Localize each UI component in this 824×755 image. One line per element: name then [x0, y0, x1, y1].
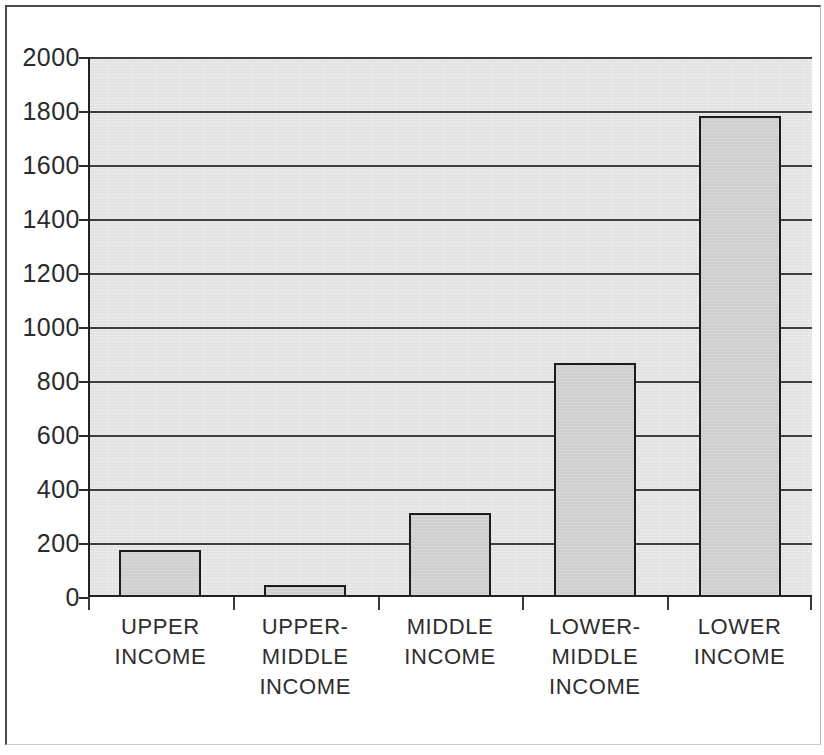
x-axis-category-label-line: MIDDLE — [404, 612, 496, 642]
x-axis-category-label-line: MIDDLE — [259, 642, 351, 672]
bar — [119, 550, 201, 597]
plot-area — [88, 57, 812, 597]
y-axis-tick-label: 800 — [14, 369, 80, 394]
y-axis-tick-label: 1800 — [14, 99, 80, 124]
x-axis-tick-mark — [88, 597, 90, 610]
y-axis-tick-label: 400 — [14, 477, 80, 502]
bar-texture — [556, 365, 634, 595]
y-axis-tick-mark — [79, 381, 88, 383]
y-axis-tick-label: 1400 — [14, 207, 80, 232]
x-axis-category-label: LOWER-MIDDLEINCOME — [549, 612, 641, 702]
bar — [699, 116, 781, 597]
y-axis-tick-label: 200 — [14, 531, 80, 556]
x-axis-tick-mark — [522, 597, 524, 610]
y-axis-tick-label: 600 — [14, 423, 80, 448]
x-axis-ticks — [88, 597, 812, 611]
bar-chart: 2000180016001400120010008006004002000 UP… — [0, 0, 824, 755]
gridline — [88, 111, 812, 113]
y-axis-tick-mark — [79, 165, 88, 167]
bar — [554, 363, 636, 597]
y-axis-tick-mark — [79, 489, 88, 491]
y-axis-tick-mark — [79, 435, 88, 437]
bar — [409, 513, 491, 597]
y-axis-tick-label: 2000 — [14, 45, 80, 70]
x-axis-category-label: MIDDLEINCOME — [404, 612, 496, 672]
x-axis-category-label-line: LOWER — [694, 612, 786, 642]
x-axis-tick-mark — [233, 597, 235, 610]
x-axis-tick-mark — [378, 597, 380, 610]
bar-texture — [701, 118, 779, 595]
y-axis-tick-mark — [79, 543, 88, 545]
x-axis-category-label-line: MIDDLE — [549, 642, 641, 672]
y-axis-tick-mark — [79, 57, 88, 59]
x-axis-category-label-line: LOWER- — [549, 612, 641, 642]
y-axis-tick-label: 1200 — [14, 261, 80, 286]
y-axis-line — [88, 57, 90, 597]
x-axis-category-label-line: UPPER- — [259, 612, 351, 642]
y-axis-tick-mark — [79, 111, 88, 113]
x-axis-category-label: UPPER-MIDDLEINCOME — [259, 612, 351, 702]
x-axis-tick-mark — [667, 597, 669, 610]
bar-texture — [121, 552, 199, 595]
x-axis-category-label-line: INCOME — [404, 642, 496, 672]
x-axis-category-label: LOWERINCOME — [694, 612, 786, 672]
y-axis-tick-mark — [79, 597, 88, 599]
y-axis-tick-label: 0 — [14, 585, 80, 610]
x-axis-labels: UPPERINCOMEUPPER-MIDDLEINCOMEMIDDLEINCOM… — [88, 612, 812, 742]
x-axis-tick-mark — [810, 597, 812, 610]
y-axis-tick-mark — [79, 273, 88, 275]
bar-texture — [266, 587, 344, 595]
y-axis-tick-mark — [79, 219, 88, 221]
y-axis-tick-mark — [79, 327, 88, 329]
y-axis-tick-label: 1600 — [14, 153, 80, 178]
bar-texture — [411, 515, 489, 595]
x-axis-category-label-line: INCOME — [694, 642, 786, 672]
x-axis-category-label-line: INCOME — [549, 672, 641, 702]
y-axis: 2000180016001400120010008006004002000 — [10, 0, 80, 755]
gridline — [88, 57, 812, 59]
x-axis-category-label-line: INCOME — [115, 642, 207, 672]
x-axis-category-label-line: INCOME — [259, 672, 351, 702]
x-axis-category-label: UPPERINCOME — [115, 612, 207, 672]
x-axis-category-label-line: UPPER — [115, 612, 207, 642]
y-axis-tick-label: 1000 — [14, 315, 80, 340]
